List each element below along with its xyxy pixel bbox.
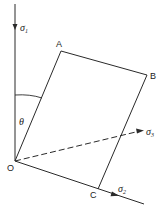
sigma2-axis: σ2 <box>15 161 144 204</box>
theta-arc <box>15 95 42 98</box>
sigma3-axis: σ3 <box>15 126 154 161</box>
plane-oabc <box>15 51 147 189</box>
edge-ab <box>61 51 147 75</box>
sigma1-arrow-icon <box>13 24 18 30</box>
stress-plane-diagram: σ1 σ2 σ3 θ A B C O <box>0 0 164 213</box>
edge-oa <box>15 51 61 161</box>
point-label-o: O <box>7 163 14 173</box>
sigma2-label: σ2 <box>118 183 126 195</box>
point-label-c: C <box>90 190 97 200</box>
sigma1-axis: σ1 <box>13 4 28 161</box>
sigma3-arrow-icon <box>136 129 144 134</box>
theta-label: θ <box>19 116 24 127</box>
sigma3-label: σ3 <box>146 126 154 138</box>
point-label-a: A <box>56 39 62 49</box>
theta-angle: θ <box>15 95 42 127</box>
point-label-b: B <box>150 71 156 81</box>
sigma1-label: σ1 <box>20 22 28 34</box>
